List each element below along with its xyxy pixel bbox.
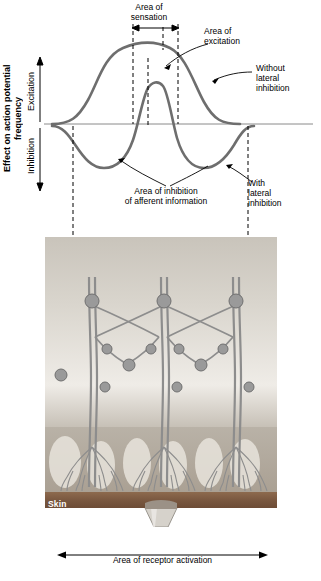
curve-without-lateral-inhibition [52, 43, 240, 124]
figure-root: Effect on action potential frequency Exc… [0, 0, 321, 581]
label-area-of-receptor-activation: Area of receptor activation [60, 555, 265, 565]
label-without-lateral-inhibition: Without lateral inhibition [256, 63, 316, 93]
label-area-of-excitation: Area of excitation [204, 26, 266, 46]
label-area-of-sensation: Area of sensation [117, 2, 181, 22]
area-of-sensation-arrow [132, 25, 179, 31]
label-skin: Skin [48, 499, 67, 509]
label-with-lateral-inhibition: With lateral inhibition [248, 178, 310, 208]
skin-receptor-illustration [45, 237, 277, 527]
dashed-guides [73, 24, 248, 240]
curve-with-lateral-inhibition [52, 82, 254, 168]
label-area-of-inhibition: Area of inhibition of afferent informati… [86, 186, 246, 206]
axis-arrows [37, 57, 43, 191]
